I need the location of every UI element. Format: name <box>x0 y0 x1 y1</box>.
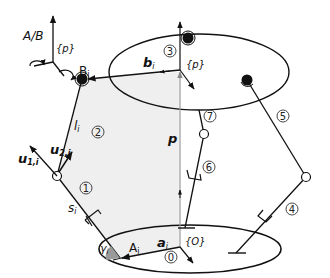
vector-b-label: bi <box>143 55 155 71</box>
body-number-4: 4 <box>286 203 298 215</box>
angle-gamma-label: γi <box>100 242 109 256</box>
svg-text:1: 1 <box>83 183 89 194</box>
body-number-3: 3 <box>164 45 176 57</box>
vector-p-label: p <box>167 131 177 146</box>
diagram-canvas: A/B {p} <box>0 0 330 278</box>
joint-universal-right <box>302 173 311 182</box>
body-number-6: 6 <box>203 161 215 173</box>
base-frame-label: {O} <box>185 236 206 247</box>
svg-text:5: 5 <box>280 111 286 122</box>
leg-middle-lower <box>185 134 204 228</box>
joint-universal-middle <box>200 130 209 139</box>
svg-text:4: 4 <box>289 204 295 215</box>
vector-loop-shading <box>57 72 179 258</box>
length-s-label: si <box>68 201 77 216</box>
platform-frame-label: {p} <box>186 59 205 70</box>
leg-right-lower <box>236 177 306 253</box>
prismatic-joint-middle <box>187 170 201 180</box>
axis-u1-label: u1,i <box>18 151 39 167</box>
body-number-0: 0 <box>165 251 177 263</box>
svg-text:7: 7 <box>207 111 213 122</box>
joint-type-label: A/B <box>22 29 43 43</box>
svg-text:0: 0 <box>168 252 174 263</box>
anchor-B-label: Bi <box>79 64 89 79</box>
svg-text:2: 2 <box>95 127 101 138</box>
base-y-axis <box>180 247 193 263</box>
svg-text:3: 3 <box>167 46 173 57</box>
legend-frame-label: {p} <box>56 43 75 54</box>
leg-right-upper <box>247 80 306 177</box>
body-number-7: 7 <box>204 110 216 122</box>
svg-text:6: 6 <box>206 162 212 173</box>
legend-y-axis <box>53 62 64 76</box>
body-number-5: 5 <box>277 110 289 122</box>
moving-platform <box>109 34 289 110</box>
platform-y-axis <box>180 70 194 89</box>
joint-B-top <box>181 31 195 45</box>
